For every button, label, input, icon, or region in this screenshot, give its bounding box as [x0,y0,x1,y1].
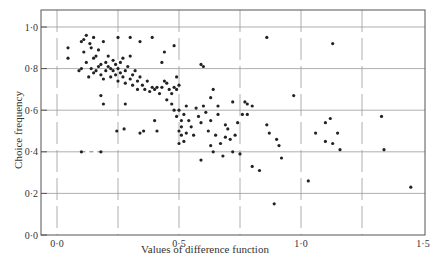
data-point [324,140,327,143]
x-tick-label: 1·0 [294,238,307,249]
data-point [182,113,185,116]
data-point [224,123,227,126]
data-point [199,63,202,66]
data-point [66,57,69,60]
data-point [246,113,249,116]
data-point [251,104,254,107]
data-point [142,129,145,132]
data-point [148,90,151,93]
data-point [331,142,334,145]
data-point [112,69,115,72]
plot-frame [41,10,425,235]
data-point [153,119,156,122]
data-point [338,148,341,151]
data-point [177,129,180,132]
data-point [241,113,244,116]
data-point [107,65,110,68]
data-point [168,88,171,91]
data-point [136,88,139,91]
data-point [204,111,207,114]
data-point [177,142,180,145]
data-point [119,61,122,64]
data-point [82,50,85,53]
x-tick-label: 1·5 [416,238,429,249]
data-point [275,138,278,141]
data-point [99,150,102,153]
data-point [187,119,190,122]
data-point [192,134,195,137]
data-point [209,96,212,99]
data-point [66,46,69,49]
data-point [236,121,239,124]
data-point [158,92,161,95]
data-point [151,86,154,89]
data-point [114,73,117,76]
data-point [180,134,183,137]
y-tick-labels: 0·00·20·40·60·81·0 [25,22,38,241]
data-point [115,129,118,132]
data-point [116,67,119,70]
y-axis-title: Choice frequency [12,91,24,169]
data-point [134,69,137,72]
grid [41,10,425,235]
data-point [238,152,241,155]
data-point [92,57,95,60]
data-point [180,125,183,128]
data-point [129,36,132,39]
data-point [214,134,217,137]
data-point [380,115,383,118]
data-point [212,88,215,91]
data-point [314,132,317,135]
data-point [207,129,210,132]
data-point [329,117,332,120]
data-point [216,113,219,116]
data-point [138,40,141,43]
data-point [324,121,327,124]
data-point [129,55,132,58]
data-point [258,169,261,172]
data-point [116,36,119,39]
y-tick-label: 0·0 [25,230,38,241]
data-point [234,134,237,137]
data-point [123,127,126,130]
data-point [80,150,83,153]
data-point [331,42,334,45]
data-point [265,123,268,126]
data-point [182,140,185,143]
data-point [190,125,193,128]
data-point [195,107,198,110]
data-point [185,104,188,107]
data-point [163,80,166,83]
data-point [141,84,144,87]
data-point [109,75,112,78]
data-point [107,55,110,58]
y-tick-label: 0·6 [25,105,38,116]
data-point [114,63,117,66]
data-point [97,65,100,68]
data-point [209,119,212,122]
data-point [175,115,178,118]
data-point [99,94,102,97]
data-point [173,109,176,112]
data-point [92,36,95,39]
data-point [102,40,105,43]
data-point [163,50,166,53]
data-point [160,86,163,89]
data-point [109,67,112,70]
data-point [102,102,105,105]
data-point [216,104,219,107]
data-point [273,202,276,205]
data-point [382,148,385,151]
data-point [409,186,412,189]
data-point [143,88,146,91]
data-point [126,65,129,68]
data-point [146,80,149,83]
data-point [165,82,168,85]
data-point [138,75,141,78]
data-point [116,80,119,83]
data-point [268,132,271,135]
data-point [119,71,122,74]
data-point [173,86,176,89]
data-point [104,61,107,64]
data-point [212,150,215,153]
